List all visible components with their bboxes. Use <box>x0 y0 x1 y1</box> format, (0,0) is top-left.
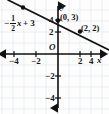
coordinate-plane-figure: − 1 2 x + 3 (0, 3) (2, 2) −4 −2 2 4 4 2 … <box>0 0 109 114</box>
point-marker-upper <box>21 5 25 9</box>
point-marker-2-2 <box>78 29 82 33</box>
plotted-line-and-points <box>0 0 109 114</box>
point-marker-0-3 <box>56 18 60 22</box>
